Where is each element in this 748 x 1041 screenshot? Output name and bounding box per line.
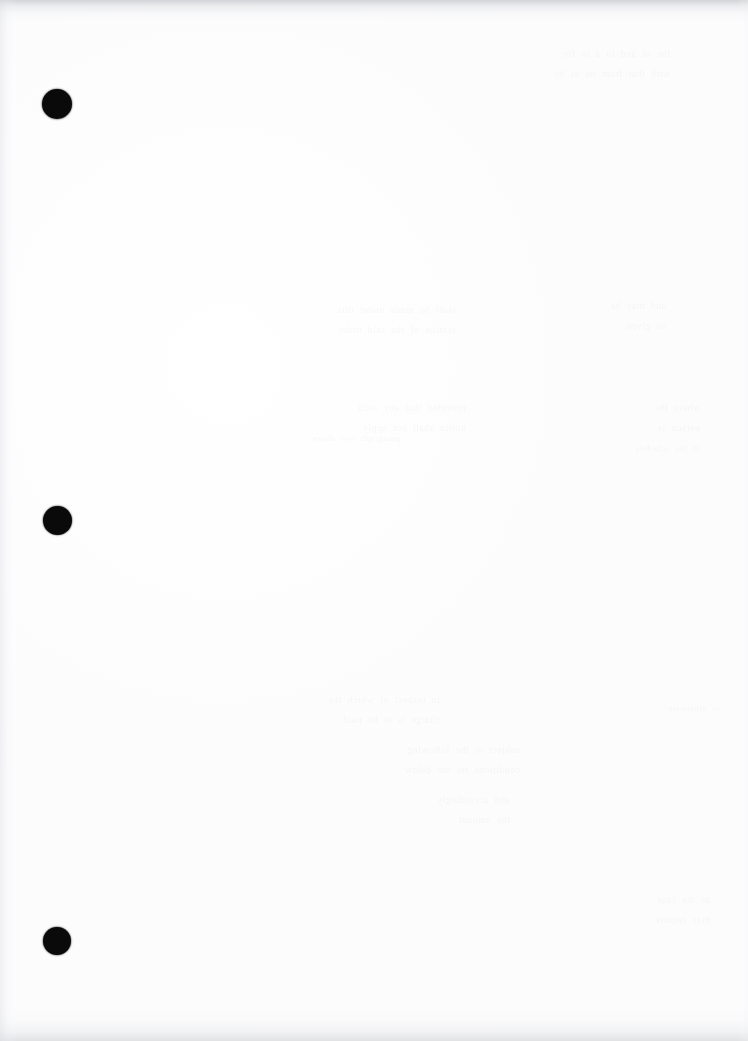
paper-background <box>0 0 748 1041</box>
scan-edge-shadow-bottom <box>0 1007 748 1041</box>
scan-edge-shadow-left <box>0 0 18 1041</box>
scanned-document-page: the of and in a to for with that from on… <box>0 0 748 1041</box>
binding-hole-mark-1 <box>42 89 72 119</box>
binding-hole-mark-3 <box>43 927 71 955</box>
scan-edge-shadow-right <box>736 0 748 1041</box>
scan-edge-shadow-top <box>0 0 748 26</box>
binding-hole-mark-2 <box>43 506 72 535</box>
